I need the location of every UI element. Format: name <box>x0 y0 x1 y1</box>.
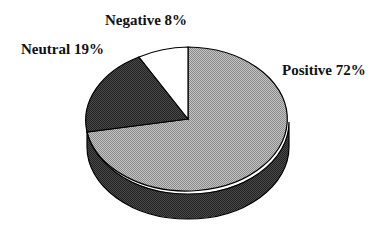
label-negative: Negative 8% <box>105 13 187 28</box>
label-neutral: Neutral 19% <box>21 42 104 57</box>
pie-chart: Negative 8% Neutral 19% Positive 72% <box>0 0 385 237</box>
pie-chart-graphic <box>0 0 385 237</box>
label-positive: Positive 72% <box>282 63 366 78</box>
